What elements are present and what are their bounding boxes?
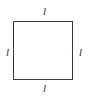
side-label-bottom: l: [0, 83, 89, 94]
side-label-left: l: [2, 47, 13, 58]
side-label-top: l: [0, 6, 89, 17]
square-shape: [13, 21, 73, 80]
figure-canvas: l l l l: [0, 0, 89, 100]
side-label-right: l: [75, 47, 86, 58]
